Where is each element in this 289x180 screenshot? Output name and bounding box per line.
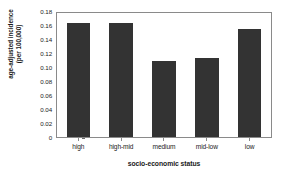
bar-slot: [100, 13, 143, 137]
bar-chart: age-adjusted incidence (per 100,000) 0.1…: [0, 0, 289, 180]
bar-low: [238, 29, 262, 137]
y-axis-tick-label: 0.18: [30, 9, 52, 15]
x-axis-tick-slot: [228, 138, 271, 141]
y-axis-tick-label: 0: [30, 135, 52, 141]
y-axis-title-line-1: age-adjusted incidence: [6, 9, 14, 79]
bar-slot: [143, 13, 186, 137]
y-axis-title: age-adjusted incidence (per 100,000): [4, 0, 26, 97]
bar-slot: [185, 13, 228, 137]
x-axis-tick-label: high-mid: [100, 142, 143, 154]
y-axis-tick-label: 0.02: [30, 121, 52, 127]
x-axis-tick-label: high: [57, 142, 100, 154]
x-axis-tick-labels: highhigh-midmediummid-lowlow: [57, 142, 271, 154]
x-axis-tick-label: low: [228, 142, 271, 154]
y-axis-tick-label: 0.08: [30, 79, 52, 85]
bar-high: [67, 23, 91, 137]
bar-medium: [152, 61, 176, 137]
x-axis-tick-slot: [100, 138, 143, 141]
x-axis-tick-mark: [206, 138, 207, 141]
y-axis-tick-label: 0.14: [30, 37, 52, 43]
y-axis-tick-labels: 0.180.160.140.120.100.080.060.040.020: [30, 12, 52, 138]
bar-mid-low: [195, 58, 219, 137]
bars-container: [57, 13, 271, 137]
bar-slot: [57, 13, 100, 137]
x-axis-tick-marks: [57, 138, 271, 141]
x-axis-tick-slot: [57, 138, 100, 141]
y-axis-title-line-2: (per 100,000): [15, 25, 23, 63]
x-axis-tick-mark: [249, 138, 250, 141]
y-axis-tick-label: 0.16: [30, 23, 52, 29]
x-axis-tick-mark: [121, 138, 122, 141]
bar-high-mid: [109, 23, 133, 137]
bar-slot: [228, 13, 271, 137]
x-axis-tick-label: mid-low: [185, 142, 228, 154]
y-axis-tick-label: 0.06: [30, 93, 52, 99]
x-axis-title: socio-economic status: [57, 160, 271, 167]
x-axis-tick-slot: [185, 138, 228, 141]
x-axis-tick-mark: [163, 138, 164, 141]
x-axis-tick-mark: [78, 138, 79, 141]
y-axis-tick-label: 0.12: [30, 51, 52, 57]
x-axis-tick-slot: [143, 138, 186, 141]
x-axis-tick-label: medium: [143, 142, 186, 154]
y-axis-tick-label: 0.10: [30, 65, 52, 71]
y-axis-tick-label: 0.04: [30, 107, 52, 113]
